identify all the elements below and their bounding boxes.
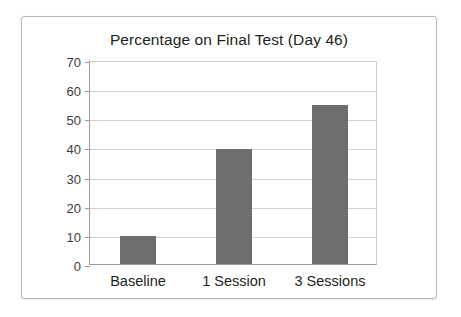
y-axis-tick-label: 70 (67, 55, 81, 70)
x-axis-tick-label: Baseline (110, 273, 166, 289)
figure-frame: Percentage on Final Test (Day 46) 010203… (21, 16, 437, 299)
bar (216, 149, 252, 264)
plot-area: 010203040506070Baseline1 Session3 Sessio… (89, 61, 377, 265)
y-axis-tick-mark (85, 266, 90, 267)
y-axis-tick-label: 10 (67, 229, 81, 244)
y-axis-tick-label: 20 (67, 200, 81, 215)
bar (120, 236, 156, 264)
y-axis-tick-label: 50 (67, 113, 81, 128)
x-axis-tick-label: 3 Sessions (295, 273, 366, 289)
y-axis-tick-mark (85, 120, 90, 121)
x-axis-tick-label: 1 Session (202, 273, 266, 289)
y-axis-tick-mark (85, 179, 90, 180)
y-axis-tick-label: 30 (67, 171, 81, 186)
y-axis-tick-mark (85, 91, 90, 92)
y-axis-tick-mark (85, 62, 90, 63)
chart-title: Percentage on Final Test (Day 46) (22, 31, 436, 49)
y-axis-tick-label: 40 (67, 142, 81, 157)
y-axis-tick-label: 60 (67, 84, 81, 99)
bar (312, 105, 348, 264)
gridline (90, 91, 376, 92)
y-axis-tick-mark (85, 149, 90, 150)
y-axis-tick-mark (85, 208, 90, 209)
y-axis-tick-label: 0 (74, 259, 81, 274)
y-axis-tick-mark (85, 237, 90, 238)
